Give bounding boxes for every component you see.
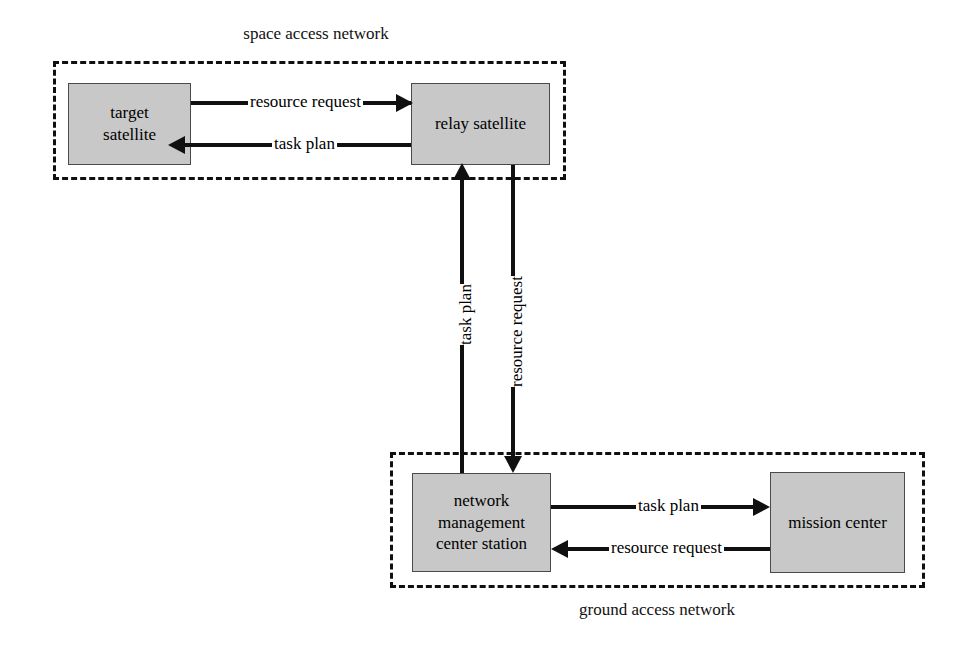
node-nmcs-label-line1: network [454,491,510,510]
zone-caption-space-access-network: space access network [188,25,444,42]
node-nmcs-label-line2: management [438,513,525,532]
node-target-satellite-label: target satellite [99,102,160,146]
node-mission-center-label-line1: mission center [788,513,887,532]
node-relay-satellite-label-line1: relay satellite [435,114,526,133]
node-nmcs-label-line3: center station [436,534,527,553]
node-target-satellite-label-line2: satellite [103,125,156,144]
edge-label-target-to-relay: resource request [248,93,363,110]
edge-target-to-relay-arrowhead [396,94,413,112]
node-network-management-center-station[interactable]: network management center station [412,473,551,572]
edge-label-nmcs-to-mission: task plan [636,497,701,514]
edge-label-relay-to-target: task plan [272,135,337,152]
edge-label-mission-to-nmcs: resource request [609,539,724,556]
node-relay-satellite-label: relay satellite [431,113,530,135]
edge-label-nmcs-to-relay: task plan [455,284,476,345]
edge-nmcs-to-mission-arrowhead [753,498,770,516]
node-mission-center-label: mission center [784,512,891,534]
node-network-management-center-station-label: network management center station [432,490,531,555]
node-target-satellite-label-line1: target [110,103,148,122]
edge-mission-to-nmcs-arrowhead [551,540,568,558]
edge-label-relay-to-nmcs: resource request [506,276,527,387]
diagram-canvas: space access network target satellite re… [0,0,978,650]
node-mission-center[interactable]: mission center [770,472,905,573]
node-relay-satellite[interactable]: relay satellite [411,83,550,165]
edge-relay-to-target-arrowhead [168,136,185,154]
zone-caption-ground-access-network: ground access network [529,601,785,618]
edge-nmcs-to-relay-arrowhead [453,163,471,180]
